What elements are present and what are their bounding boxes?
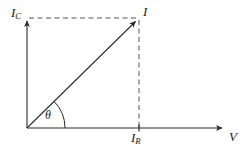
phasor-diagram-canvas: IC I IR V θ [0, 0, 247, 148]
label-voltage: V [229, 130, 237, 145]
label-total-current: I [143, 5, 147, 20]
label-phase-angle: θ [45, 109, 51, 121]
resultant-current-vector [27, 22, 136, 129]
label-resistive-current: IR [131, 131, 141, 146]
label-i-main: I [143, 4, 147, 19]
label-ir-sub: R [135, 136, 140, 146]
label-ic-sub: C [15, 11, 21, 21]
label-capacitive-current: IC [11, 6, 21, 21]
phasor-diagram-graphic [0, 0, 247, 148]
label-v-main: V [229, 129, 237, 144]
phase-angle-arc [54, 101, 65, 128]
